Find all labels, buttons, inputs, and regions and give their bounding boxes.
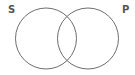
set-p-circle xyxy=(58,8,119,69)
set-p-label: P xyxy=(122,5,129,15)
set-s-circle xyxy=(16,8,77,69)
venn-diagram xyxy=(0,0,135,75)
set-s-label: S xyxy=(8,5,15,15)
